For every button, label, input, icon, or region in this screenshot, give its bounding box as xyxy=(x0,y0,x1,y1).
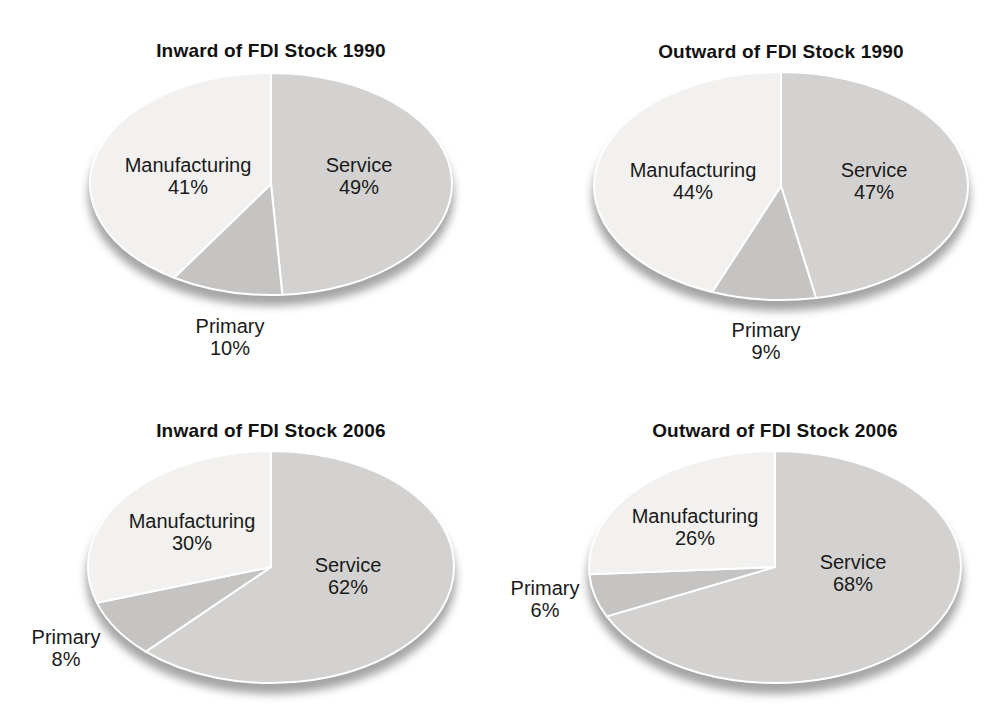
slice-label-service: Service xyxy=(841,159,908,181)
slice-value-primary: 8% xyxy=(52,648,81,670)
chart-title-outward-2006: Outward of FDI Stock 2006 xyxy=(615,420,935,442)
chart-cell-inward-1990: Service49%Primary10%Manufacturing41% Inw… xyxy=(0,0,499,363)
slice-label-manufacturing: Manufacturing xyxy=(125,154,252,176)
chart-title-outward-1990: Outward of FDI Stock 1990 xyxy=(621,41,941,63)
slice-label-primary: Primary xyxy=(32,626,101,648)
chart-cell-inward-2006: Service62%Primary8%Manufacturing30% Inwa… xyxy=(0,363,499,726)
slice-value-service: 68% xyxy=(833,573,873,595)
slice-label-service: Service xyxy=(820,551,887,573)
slice-value-service: 47% xyxy=(854,181,894,203)
pie-chart-inward-2006: Service62%Primary8%Manufacturing30% xyxy=(0,363,499,726)
chart-cell-outward-1990: Service47%Primary9%Manufacturing44% Outw… xyxy=(499,0,998,363)
slice-value-primary: 10% xyxy=(210,337,250,359)
slice-value-primary: 9% xyxy=(752,341,781,363)
slice-value-manufacturing: 26% xyxy=(675,527,715,549)
slice-label-primary: Primary xyxy=(511,577,580,599)
slice-value-manufacturing: 30% xyxy=(172,532,212,554)
pie-chart-outward-2006: Service68%Primary6%Manufacturing26% xyxy=(499,363,998,726)
slice-label-manufacturing: Manufacturing xyxy=(129,510,256,532)
fdi-stock-pie-figure: Service49%Primary10%Manufacturing41% Inw… xyxy=(0,0,998,726)
slice-value-manufacturing: 41% xyxy=(168,176,208,198)
chart-title-inward-1990: Inward of FDI Stock 1990 xyxy=(111,40,431,62)
chart-title-inward-2006: Inward of FDI Stock 2006 xyxy=(111,420,431,442)
slice-label-manufacturing: Manufacturing xyxy=(630,159,757,181)
slice-label-primary: Primary xyxy=(732,319,801,341)
chart-cell-outward-2006: Service68%Primary6%Manufacturing26% Outw… xyxy=(499,363,998,726)
slice-value-service: 62% xyxy=(328,576,368,598)
slice-label-manufacturing: Manufacturing xyxy=(632,505,759,527)
slice-label-service: Service xyxy=(326,154,393,176)
slice-label-service: Service xyxy=(315,554,382,576)
slice-value-manufacturing: 44% xyxy=(673,181,713,203)
slice-value-primary: 6% xyxy=(531,599,560,621)
slice-value-service: 49% xyxy=(339,176,379,198)
slice-label-primary: Primary xyxy=(196,315,265,337)
